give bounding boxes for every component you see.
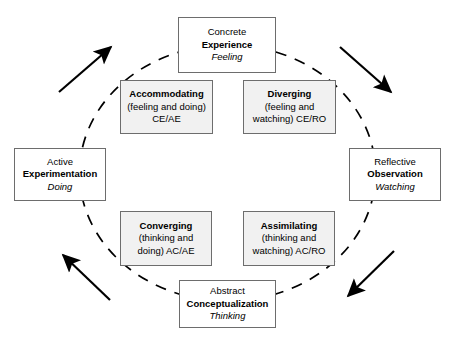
stage-label-line2: Observation xyxy=(367,168,422,180)
style-label-line2: (feeling and doing) xyxy=(127,101,206,114)
arrow-bottom-left-upward xyxy=(63,255,110,300)
arrow-top-left-upward xyxy=(59,47,111,92)
stage-box-reflective-observation: Reflective Observation Watching xyxy=(349,148,441,201)
stage-label-line3: Feeling xyxy=(211,51,242,63)
style-label-line3: watching) CE/RO xyxy=(253,113,326,126)
stage-label-line3: Thinking xyxy=(210,310,246,322)
arrow-bottom-right-downward xyxy=(348,251,394,296)
style-box-converging: Converging (thinking and doing) AC/AE xyxy=(120,211,212,266)
diagram-canvas: Concrete Experience Feeling Reflective O… xyxy=(0,0,455,343)
style-label-line3: watching) AC/RO xyxy=(253,245,326,258)
stage-label-line1: Active xyxy=(47,156,73,168)
stage-box-concrete-experience: Concrete Experience Feeling xyxy=(178,17,276,73)
style-label-line2: (feeling and xyxy=(265,101,315,114)
style-box-assimilating: Assimilating (thinking and watching) AC/… xyxy=(243,211,335,266)
style-label-line1: Accommodating xyxy=(129,88,203,101)
stage-label-line3: Doing xyxy=(48,181,73,193)
style-label-line1: Converging xyxy=(140,220,193,233)
stage-label-line1: Abstract xyxy=(210,285,245,297)
arrow-top-right-downward xyxy=(340,47,391,92)
style-label-line3: CE/AE xyxy=(152,113,181,126)
stage-box-abstract-conceptualization: Abstract Conceptualization Thinking xyxy=(179,280,276,328)
style-label-line2: (thinking and xyxy=(139,232,193,245)
stage-label-line2: Experimentation xyxy=(23,168,97,180)
stage-label-line2: Conceptualization xyxy=(187,298,269,310)
style-label-line3: doing) AC/AE xyxy=(137,245,194,258)
stage-box-active-experimentation: Active Experimentation Doing xyxy=(14,148,106,201)
style-box-accommodating: Accommodating (feeling and doing) CE/AE xyxy=(120,80,213,134)
style-label-line2: (thinking and xyxy=(262,232,316,245)
style-box-diverging: Diverging (feeling and watching) CE/RO xyxy=(243,80,336,134)
stage-label-line1: Reflective xyxy=(374,156,416,168)
stage-label-line2: Experience xyxy=(202,39,253,51)
style-label-line1: Assimilating xyxy=(261,220,318,233)
stage-label-line3: Watching xyxy=(375,181,414,193)
stage-label-line1: Concrete xyxy=(208,26,247,38)
style-label-line1: Diverging xyxy=(268,88,312,101)
